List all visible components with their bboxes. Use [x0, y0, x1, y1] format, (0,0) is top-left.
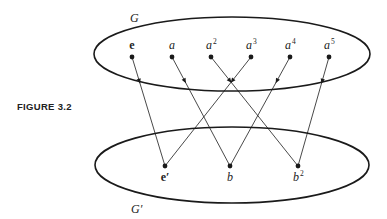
mapping-line-a-to-b: [172, 57, 230, 166]
element-dot: [130, 55, 135, 60]
figure-3-2: FIGURE 3.2 G G′ eaa2a3a4a5e′bb2: [0, 0, 387, 219]
element-exponent: 4: [292, 37, 296, 46]
element-label: b: [227, 170, 233, 184]
element-dot: [170, 55, 175, 60]
element-a4: a4: [285, 37, 296, 59]
mapping-arrows: [132, 57, 329, 166]
arrowhead-icon: [227, 77, 232, 82]
element-a2: a2: [206, 37, 217, 59]
mapping-line-a4-to-b: [230, 57, 290, 166]
mapping-line-e-to-e': [132, 57, 165, 166]
mapping-line-a3-to-e': [165, 57, 251, 166]
element-exponent: 2: [213, 37, 217, 46]
element-exponent: 3: [253, 37, 257, 46]
element-label: e′: [161, 170, 170, 184]
element-label: e: [129, 38, 135, 52]
group-g-prime-label: G′: [131, 202, 143, 216]
element-dot: [296, 164, 301, 169]
element-label: b: [293, 170, 299, 184]
element-b: b: [227, 164, 233, 184]
mapping-line-a5-to-b2: [298, 57, 329, 166]
element-label: a: [285, 38, 291, 52]
element-exponent: 2: [300, 169, 304, 178]
element-dot: [327, 55, 332, 60]
element-e: e: [129, 38, 135, 59]
element-a5: a5: [324, 37, 335, 59]
element-label: a: [324, 38, 330, 52]
element-a3: a3: [246, 37, 257, 59]
element-dot: [209, 55, 214, 60]
element-label: a: [206, 38, 212, 52]
element-a: a: [169, 38, 175, 59]
element-e': e′: [161, 164, 170, 184]
element-dot: [228, 164, 233, 169]
element-dot: [288, 55, 293, 60]
arrowhead-icon: [231, 77, 236, 82]
element-exponent: 5: [331, 37, 335, 46]
element-label: a: [246, 38, 252, 52]
element-label: a: [169, 38, 175, 52]
group-g-label: G: [130, 11, 139, 25]
homomorphism-diagram: G G′ eaa2a3a4a5e′bb2: [0, 0, 387, 219]
element-dot: [163, 164, 168, 169]
element-b2: b2: [293, 164, 304, 184]
mapping-line-a2-to-b2: [211, 57, 298, 166]
element-dot: [249, 55, 254, 60]
